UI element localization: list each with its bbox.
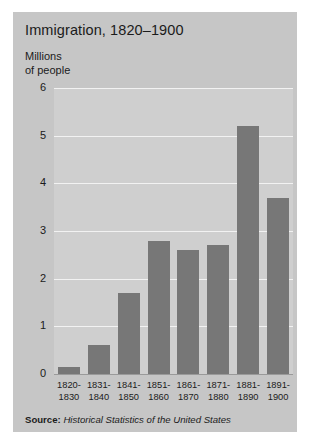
y-axis-tick-label: 4 (13, 176, 46, 188)
source-prefix: Source: (25, 414, 61, 425)
x-axis-tick-label: 1891-1900 (263, 380, 293, 403)
x-axis-tick-line: 1861- (173, 380, 203, 392)
x-axis-tick-line: 1881- (233, 380, 263, 392)
bar (58, 367, 80, 374)
x-axis-tick-line: 1841- (114, 380, 144, 392)
x-axis-tick-line: 1850 (114, 392, 144, 404)
x-axis-tick-label: 1851-1860 (144, 380, 174, 403)
x-axis-tick-label: 1820-1830 (54, 380, 84, 403)
x-axis-tick-line: 1860 (144, 392, 174, 404)
y-axis-tick-label: 3 (13, 224, 46, 236)
y-axis-tick-label: 6 (13, 81, 46, 93)
x-axis-tick-label: 1861-1870 (173, 380, 203, 403)
x-axis-tick-line: 1840 (84, 392, 114, 404)
y-axis-tick-label: 5 (13, 129, 46, 141)
bar (118, 293, 140, 374)
bar (207, 245, 229, 374)
x-axis-tick-line: 1900 (263, 392, 293, 404)
bar (148, 241, 170, 374)
bar (237, 126, 259, 374)
y-axis-label-line2: of people (25, 64, 70, 78)
x-axis-tick-line: 1880 (203, 392, 233, 404)
y-axis-tick-label: 2 (13, 272, 46, 284)
x-axis-tick-label: 1841-1850 (114, 380, 144, 403)
y-axis-label-line1: Millions (25, 50, 70, 64)
bar (267, 198, 289, 374)
source-note: Source: Historical Statistics of the Uni… (25, 414, 231, 425)
y-axis-label: Millions of people (25, 50, 70, 77)
bar (88, 345, 110, 374)
x-axis-tick-line: 1820- (54, 380, 84, 392)
x-axis-tick-line: 1871- (203, 380, 233, 392)
x-axis-tick-label: 1871-1880 (203, 380, 233, 403)
x-axis-tick-line: 1870 (173, 392, 203, 404)
x-axis-ticks: 1820-18301831-18401841-18501851-18601861… (54, 380, 293, 410)
x-axis-tick-line: 1831- (84, 380, 114, 392)
source-title: Historical Statistics of the United Stat… (63, 414, 230, 425)
x-axis-tick-line: 1890 (233, 392, 263, 404)
x-axis-tick-line: 1891- (263, 380, 293, 392)
chart-title: Immigration, 1820–1900 (25, 22, 184, 38)
x-axis-tick-line: 1830 (54, 392, 84, 404)
y-axis-tick-label: 1 (13, 319, 46, 331)
y-axis-tick-label: 0 (13, 367, 46, 379)
x-axis-tick-label: 1881-1890 (233, 380, 263, 403)
x-axis-baseline (54, 374, 293, 375)
bar (177, 250, 199, 374)
x-axis-tick-label: 1831-1840 (84, 380, 114, 403)
bar-series (54, 88, 293, 374)
x-axis-tick-line: 1851- (144, 380, 174, 392)
chart-figure: Immigration, 1820–1900 Millions of peopl… (13, 12, 297, 432)
